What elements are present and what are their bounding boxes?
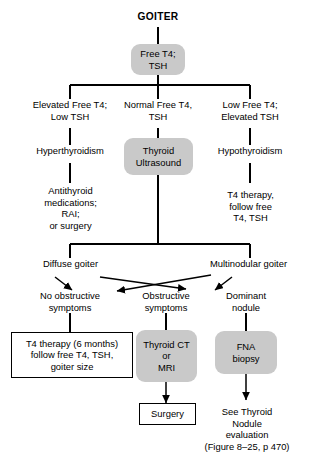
outcome-box-t4-therapy[interactable]: T4 therapy (6 months) follow free T4, TS… bbox=[11, 332, 133, 378]
goiter-type-diffuse: Diffuse goiter bbox=[18, 258, 123, 270]
arrow-diffuse-to-obstructive bbox=[100, 277, 186, 289]
arrow-multinodular-to-dominant-nodule bbox=[215, 277, 232, 290]
symptoms-none: No obstructive symptoms bbox=[12, 290, 128, 313]
process-box-thyroid-ultrasound[interactable]: Thyroid Ultrasound bbox=[124, 138, 193, 175]
outcome-referral-thyroid-nodule: See Thyroid Nodule evaluation (Figure 8–… bbox=[186, 406, 308, 452]
ultrasound-line: Ultrasound bbox=[136, 157, 181, 169]
free-t4-line: Free T4; bbox=[140, 48, 175, 60]
thyroid-line: Thyroid bbox=[143, 145, 174, 157]
branch-low-free-t4-elevated-tsh: Low Free T4; Elevated TSH bbox=[190, 99, 310, 122]
treatment-antithyroid: Antithyroid medications; RAI; or surgery bbox=[13, 185, 128, 231]
treatment-t4-replacement: T4 therapy, follow free T4, TSH bbox=[193, 189, 308, 224]
goiter-evaluation-flowchart: GOITER Free T4; TSH Elevated Free T4; Lo… bbox=[0, 0, 311, 472]
process-box-fna-biopsy[interactable]: FNA biopsy bbox=[215, 331, 277, 374]
process-box-free-t4-tsh[interactable]: Free T4; TSH bbox=[131, 44, 185, 75]
page-title: GOITER bbox=[108, 11, 208, 23]
arrow-multinodular-to-obstructive bbox=[117, 275, 211, 291]
process-box-thyroid-ct-mri[interactable]: Thyroid CT or MRI bbox=[136, 330, 197, 382]
tsh-line: TSH bbox=[149, 60, 168, 72]
symptoms-dominant-nodule: Dominant nodule bbox=[199, 290, 293, 313]
figure-cross-reference: (Figure 8–25, p 470) bbox=[186, 441, 308, 453]
diagnosis-hypothyroidism: Hypothyroidism bbox=[190, 145, 310, 157]
goiter-type-multinodular: Multinodular goiter bbox=[186, 258, 311, 270]
arrow-diffuse-to-no-obstructive bbox=[55, 277, 72, 290]
diagnosis-hyperthyroidism: Hyperthyroidism bbox=[10, 145, 130, 157]
